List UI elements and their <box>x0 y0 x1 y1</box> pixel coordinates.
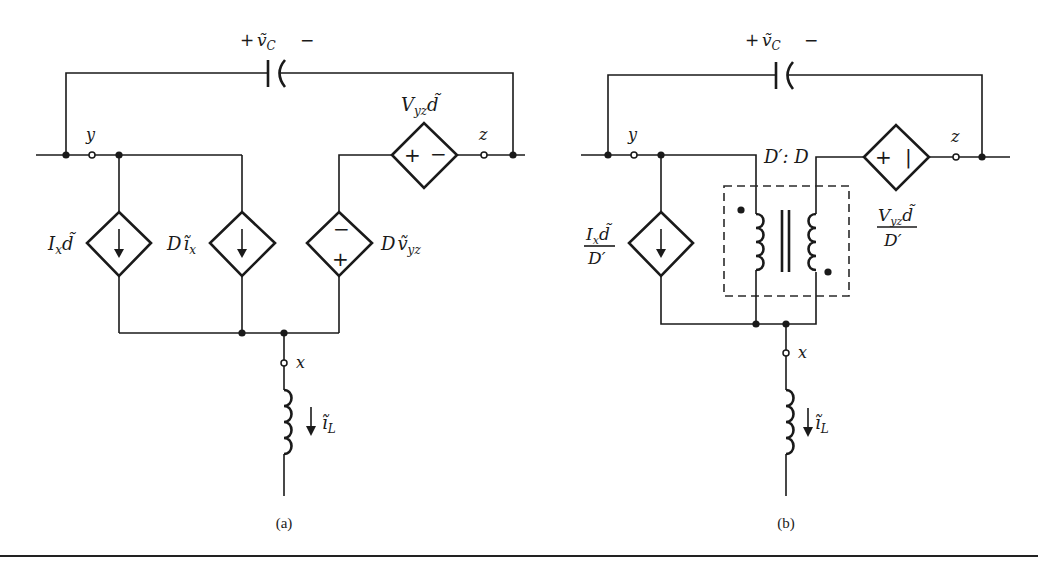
primary-winding-icon <box>756 214 764 270</box>
polarity-minus: | <box>905 145 912 169</box>
polarity-minus: − <box>333 217 350 241</box>
node-dot <box>752 320 759 327</box>
arrowhead-icon <box>656 249 666 258</box>
caption-a: (a) <box>276 515 293 532</box>
terminal-z-label: z <box>950 127 960 146</box>
series-source-denominator: D′ <box>883 230 902 250</box>
current-source-denominator: D′ <box>587 248 606 268</box>
main-wire-left <box>581 155 756 214</box>
polarity-plus: + <box>875 145 892 169</box>
dependent-voltage-source-icon <box>392 123 457 188</box>
caption-b: (b) <box>777 515 795 532</box>
wire-src3-top <box>339 155 392 212</box>
cap-plus: + <box>745 30 759 50</box>
arrowhead-icon <box>114 249 124 258</box>
arrowhead-icon <box>306 426 316 436</box>
cap-plus: + <box>240 30 254 50</box>
terminal-y-label: y <box>627 125 638 144</box>
node-dot <box>509 151 516 158</box>
terminal-y-label: y <box>85 125 96 144</box>
bottom-bus <box>661 272 816 324</box>
polarity-dot-icon <box>737 206 744 213</box>
wire-cap-left <box>66 73 267 155</box>
node-dot <box>238 329 245 336</box>
polarity-minus: − <box>430 142 447 166</box>
node-dot <box>604 151 611 158</box>
polarity-dot-icon <box>824 268 831 275</box>
transformer-box <box>724 186 849 296</box>
circuit-figure: + ṽC − y z + − Vyzd̃ Ixd̃ Dĩx <box>0 0 1038 571</box>
terminal-x-label: x <box>296 353 305 372</box>
inductor-icon <box>786 390 794 454</box>
cap-minus: − <box>300 30 314 50</box>
terminal-x <box>783 350 789 356</box>
arrowhead-icon <box>803 427 813 437</box>
terminal-y <box>631 152 637 158</box>
terminal-z-label: z <box>478 125 488 144</box>
dependent-voltage-source-icon <box>864 125 929 190</box>
series-source-numerator: Vyzd̃ <box>878 204 916 228</box>
terminal-x <box>281 360 287 366</box>
cap-voltage-label: ṽC <box>257 30 276 53</box>
arrowhead-icon <box>237 249 247 258</box>
terminal-z <box>953 154 959 160</box>
polarity-plus: + <box>332 247 349 271</box>
cap-minus: − <box>804 30 818 50</box>
terminal-y <box>89 152 95 158</box>
inductor-icon <box>284 390 292 454</box>
secondary-winding-icon <box>809 214 817 270</box>
node-dot <box>978 153 985 160</box>
terminal-z <box>481 152 487 158</box>
source3-label: Dṽyz <box>380 233 421 257</box>
wire-cap-right <box>279 73 513 155</box>
polarity-plus: + <box>404 143 421 167</box>
source1-label: Ixd̃ <box>47 232 76 257</box>
series-source-label: Vyzd̃ <box>401 93 442 118</box>
source2-label: Dĩx <box>166 233 196 257</box>
inductor-current-label: ĩL <box>815 412 829 436</box>
main-wire-mid <box>816 157 864 214</box>
transformer-ratio-label: D′: D <box>763 146 809 167</box>
inductor-current-label: ĩL <box>322 412 336 436</box>
cap-voltage-label: ṽC <box>762 30 781 53</box>
node-dot <box>62 151 69 158</box>
current-source-numerator: Ixd̃ <box>585 223 613 247</box>
diagram-a: + ṽC − y z + − Vyzd̃ Ixd̃ Dĩx <box>36 30 525 532</box>
terminal-x-label: x <box>798 343 807 362</box>
diagram-b: + ṽC − y z D′: D + | Vyzd̃ D′ Ixd̃ D′ <box>581 30 1010 532</box>
